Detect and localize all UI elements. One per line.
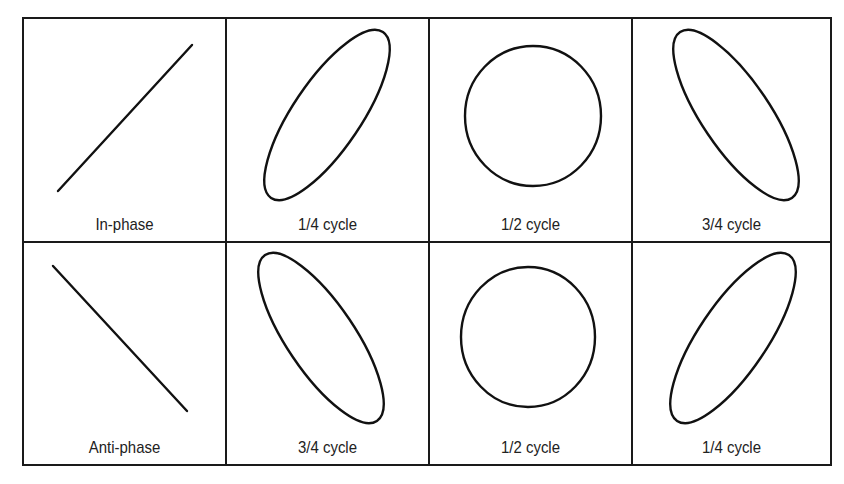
ellipse-tilted-right-icon bbox=[633, 243, 830, 433]
cell-three-quarter-cycle: 3/4 cycle bbox=[633, 19, 830, 243]
cell-label: 1/2 cycle bbox=[442, 215, 619, 235]
lissajous-grid: In-phase 1/4 cycle 1/2 cycle 3/4 cycle A… bbox=[22, 17, 832, 466]
cell-label: Anti-phase bbox=[36, 438, 213, 458]
ellipse-tilted-left-icon bbox=[633, 19, 830, 209]
cell-label: 1/4 cycle bbox=[239, 215, 416, 235]
circle-icon bbox=[430, 243, 631, 433]
cell-label: 1/2 cycle bbox=[442, 438, 619, 458]
circle-icon bbox=[430, 19, 631, 209]
cell-three-quarter-cycle-2: 3/4 cycle bbox=[227, 243, 430, 464]
cell-in-phase: In-phase bbox=[24, 19, 227, 243]
cell-anti-phase: Anti-phase bbox=[24, 243, 227, 464]
cell-label: 3/4 cycle bbox=[645, 215, 818, 235]
cell-half-cycle-2: 1/2 cycle bbox=[430, 243, 633, 464]
cell-half-cycle: 1/2 cycle bbox=[430, 19, 633, 243]
cell-label: 3/4 cycle bbox=[239, 438, 416, 458]
ellipse-tilted-left-icon bbox=[227, 243, 428, 433]
line-diagonal-down-icon bbox=[24, 243, 225, 433]
cell-label: 1/4 cycle bbox=[645, 438, 818, 458]
cell-quarter-cycle-2: 1/4 cycle bbox=[633, 243, 830, 464]
ellipse-tilted-right-icon bbox=[227, 19, 428, 209]
cell-quarter-cycle: 1/4 cycle bbox=[227, 19, 430, 243]
cell-label: In-phase bbox=[36, 215, 213, 235]
line-diagonal-up-icon bbox=[24, 19, 225, 209]
